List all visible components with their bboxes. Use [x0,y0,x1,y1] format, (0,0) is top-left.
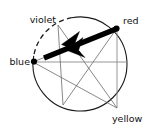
label-violet: violet [30,14,57,25]
label-red: red [123,15,139,26]
color-wheel-canvas: violet red blue yellow [0,0,152,128]
label-blue: blue [9,56,30,67]
vertex-dot-red [113,25,119,31]
color-wheel-figure: violet red blue yellow [0,0,152,128]
chord-blue-yellow [33,62,117,108]
label-yellow: yellow [112,113,143,124]
chord-violet-green [58,25,63,105]
vertex-dot-blue [31,58,37,64]
chord-violet-yellow [58,25,117,108]
